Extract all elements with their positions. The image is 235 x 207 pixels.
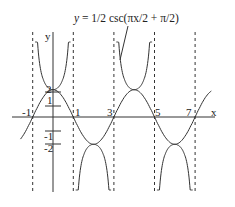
x-tick-label: 7	[186, 107, 192, 118]
cosecant-branch	[157, 144, 193, 190]
y-tick-label: -2	[44, 143, 53, 154]
x-tick-label: 3	[107, 107, 113, 118]
y-tick-label: 1	[47, 95, 53, 106]
x-axis-label: x	[211, 107, 217, 118]
plot-area	[0, 0, 235, 207]
y-axis-label: y	[45, 31, 51, 42]
cosecant-branch	[116, 42, 152, 90]
title-text: = 1/2 csc(πx/2 + π/2)	[79, 12, 179, 24]
chart-title: y = 1/2 csc(πx/2 + π/2)	[74, 13, 179, 25]
y-tick-label: -1	[44, 131, 53, 142]
x-tick-label: -1	[22, 107, 31, 118]
annotation-pointer	[120, 26, 128, 60]
x-tick-label: 5	[155, 107, 161, 118]
x-tick-label: 1	[75, 107, 81, 118]
cosecant-branch	[76, 144, 111, 190]
